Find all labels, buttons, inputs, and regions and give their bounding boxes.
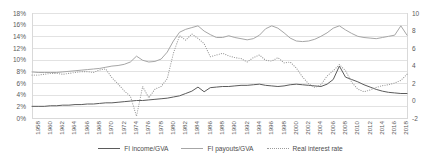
y-axis-right-tick: 4 <box>412 62 434 69</box>
x-axis-tick: 1982 <box>182 121 188 135</box>
legend-swatch-icon <box>181 148 203 149</box>
x-axis-tick: 1972 <box>121 121 127 135</box>
x-axis-tick: 2012 <box>367 121 373 135</box>
x-axis-tick: 2006 <box>330 121 336 135</box>
legend-label: FI income/GVA <box>124 145 168 152</box>
x-axis-tick: 1962 <box>59 121 65 135</box>
x-axis-tick: 2018 <box>403 121 409 135</box>
legend-item[interactable]: FI income/GVA <box>98 145 168 152</box>
x-axis-tick: 1960 <box>47 121 53 135</box>
y-axis-left-tick: 14% <box>0 33 26 40</box>
x-axis-tick: 1980 <box>170 121 176 135</box>
chart-container: 0%2%4%6%8%10%12%14%16%18% -20246810 1958… <box>0 0 441 161</box>
x-axis-tick: 2016 <box>391 121 397 135</box>
x-axis-tick: 1988 <box>219 121 225 135</box>
x-axis-tick: 1970 <box>108 121 114 135</box>
x-axis-tick: 1996 <box>268 121 274 135</box>
x-axis-tick: 2004 <box>317 121 323 135</box>
legend-item[interactable]: Real interest rate <box>267 145 343 152</box>
y-axis-right-tick: 10 <box>412 10 434 17</box>
x-axis-tick: 2000 <box>293 121 299 135</box>
x-axis-tick: 1998 <box>281 121 287 135</box>
y-axis-left-tick: 18% <box>0 10 26 17</box>
y-axis-right-tick: 6 <box>412 45 434 52</box>
x-axis-tick: 2002 <box>305 121 311 135</box>
y-axis-left-tick: 4% <box>0 91 26 98</box>
y-axis-left-tick: 2% <box>0 103 26 110</box>
y-axis-left-tick: 12% <box>0 45 26 52</box>
x-axis-tick: 1964 <box>71 121 77 135</box>
x-axis-tick: 1966 <box>84 121 90 135</box>
y-axis-left-tick: 10% <box>0 56 26 63</box>
x-axis-tick: 1974 <box>133 121 139 135</box>
x-axis-tick: 2014 <box>379 121 385 135</box>
y-axis-left-tick: 16% <box>0 21 26 28</box>
x-axis-tick: 2008 <box>342 121 348 135</box>
y-axis-right-tick: -2 <box>412 115 434 122</box>
y-axis-left-tick: 8% <box>0 68 26 75</box>
x-axis-tick: 1976 <box>145 121 151 135</box>
y-axis-left-tick: 0% <box>0 115 26 122</box>
y-axis-left-tick: 6% <box>0 80 26 87</box>
y-axis-right-tick: 0 <box>412 97 434 104</box>
series-line <box>32 66 407 106</box>
x-axis-tick: 2010 <box>354 121 360 135</box>
chart-legend: FI income/GVAFI payouts/GVAReal interest… <box>0 145 441 152</box>
series-line <box>32 26 407 73</box>
x-axis-tick: 1984 <box>194 121 200 135</box>
x-axis-tick: 1992 <box>244 121 250 135</box>
x-axis-tick: 1978 <box>158 121 164 135</box>
legend-label: Real interest rate <box>293 145 343 152</box>
x-axis-tick: 1986 <box>207 121 213 135</box>
series-lines <box>32 13 407 118</box>
x-axis-tick: 1968 <box>96 121 102 135</box>
x-axis-tick: 1990 <box>231 121 237 135</box>
y-axis-right-line <box>407 13 408 118</box>
legend-label: FI payouts/GVA <box>207 145 253 152</box>
y-axis-right-tick: 2 <box>412 80 434 87</box>
x-axis-tick: 1958 <box>35 121 41 135</box>
legend-item[interactable]: FI payouts/GVA <box>181 145 253 152</box>
legend-swatch-icon <box>98 148 120 149</box>
y-axis-right-tick: 8 <box>412 27 434 34</box>
x-axis-line <box>32 118 408 119</box>
x-axis-tick: 1994 <box>256 121 262 135</box>
legend-swatch-icon <box>267 148 289 149</box>
